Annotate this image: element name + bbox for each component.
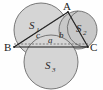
vertex-label-b: B [4, 41, 11, 53]
side-label-c: c [36, 30, 40, 40]
figure-canvas: S 1 S 2 S 3 c b a A B C [0, 0, 103, 90]
vertex-point-c [87, 46, 89, 48]
side-label-b: b [59, 30, 64, 40]
vertex-label-c: C [90, 41, 97, 53]
vertex-point-b [13, 46, 15, 48]
vertex-label-a: A [63, 0, 71, 12]
region-label-s2-sub: 2 [83, 29, 87, 37]
region-label-s1-text: S [29, 19, 35, 31]
region-label-s2-text: S [76, 22, 82, 34]
geometry-figure: S 1 S 2 S 3 c b a A B C [0, 0, 103, 90]
side-label-a: a [48, 35, 53, 45]
region-label-s3-sub: 3 [51, 66, 56, 74]
region-label-s3-text: S [45, 59, 51, 71]
